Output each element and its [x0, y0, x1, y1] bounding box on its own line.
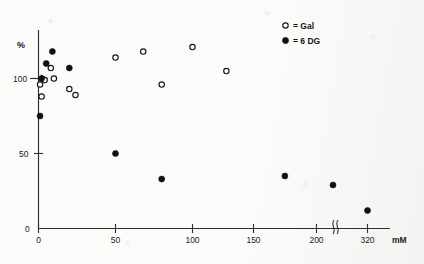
data-point-gal-5 [67, 86, 72, 91]
y-axis-title: % [17, 40, 25, 50]
data-point-6dg-4 [66, 65, 72, 71]
y-tick-label-100: 100 [13, 74, 27, 84]
data-point-6dg-3 [49, 49, 55, 55]
data-point-6dg-9 [365, 208, 371, 214]
legend-marker-6dg [282, 37, 288, 43]
y-tick-label-0: 0 [25, 224, 30, 234]
x-tick-label-150: 150 [246, 235, 260, 245]
series-6dg-points [37, 49, 370, 214]
scatter-plot-figure: % 100 50 0 0 50 100 150 200 320 mM = Ga [0, 0, 424, 264]
data-point-gal-0 [37, 82, 42, 87]
x-tick-group: 0 50 100 150 200 320 [36, 224, 375, 245]
legend-label-gal: = Gal [293, 21, 314, 31]
x-axis-break-icon [333, 220, 339, 234]
data-point-6dg-1 [39, 76, 45, 82]
data-point-6dg-8 [330, 182, 336, 188]
data-point-gal-11 [224, 68, 229, 73]
data-point-gal-3 [48, 65, 53, 70]
legend: = Gal = 6 DG [282, 21, 320, 46]
data-point-gal-7 [113, 55, 118, 60]
x-tick-label-50: 50 [111, 235, 121, 245]
data-point-6dg-7 [282, 173, 288, 179]
x-tick-label-320: 320 [360, 235, 374, 245]
legend-name-gal: Gal [300, 21, 314, 31]
data-point-gal-6 [73, 92, 78, 97]
x-tick-label-200: 200 [309, 235, 323, 245]
legend-equals-6dg: = [293, 36, 298, 46]
legend-equals-gal: = [293, 21, 298, 31]
series-gal-points [37, 44, 229, 99]
data-point-6dg-5 [113, 151, 119, 157]
x-tick-label-0: 0 [36, 235, 41, 245]
data-point-gal-8 [141, 49, 146, 54]
legend-marker-gal [283, 23, 288, 28]
legend-name-6dg: 6 DG [300, 36, 320, 46]
y-tick-label-50: 50 [19, 149, 29, 159]
data-point-6dg-0 [37, 113, 43, 119]
data-point-gal-10 [190, 44, 195, 49]
x-tick-label-100: 100 [185, 235, 199, 245]
data-point-gal-1 [39, 94, 44, 99]
data-point-gal-4 [51, 76, 56, 81]
x-unit-label: mM [392, 235, 407, 245]
axis-group [39, 30, 391, 229]
data-point-6dg-2 [43, 61, 49, 67]
data-point-gal-9 [159, 82, 164, 87]
legend-label-6dg: = 6 DG [293, 36, 321, 46]
data-point-6dg-6 [159, 176, 165, 182]
